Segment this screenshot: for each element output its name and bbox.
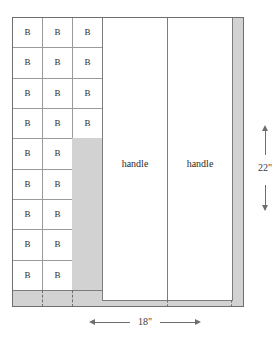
b-piece-cell: B (42, 108, 72, 138)
handle-panel-2-right-edge (232, 17, 233, 301)
b-piece-cell: B (42, 47, 72, 77)
b-piece-cell: B (12, 108, 42, 138)
handle-label-1: handle (103, 159, 167, 169)
b-piece-cell: B (12, 138, 42, 168)
width-dimension-label: 18" (130, 317, 160, 327)
b-piece-cell: B (12, 260, 42, 290)
b-piece-cell: B (12, 47, 42, 77)
b-piece-cell: B (12, 78, 42, 108)
height-dimension-arrow-down-icon (262, 205, 268, 211)
dashed-guide-2 (72, 290, 73, 307)
waste-region-column-3-lower (72, 130, 102, 290)
height-dimension-label: 22" (250, 163, 280, 173)
b-block-right-edge (102, 17, 103, 290)
b-piece-cell: B (42, 138, 72, 168)
b-piece-cell: B (12, 229, 42, 259)
waste-region-right-edge (232, 17, 244, 307)
b-piece-cell: B (72, 47, 102, 77)
cutting-layout-diagram: handle handle BBBBBBBBBBBBBBBBBBBBBB 18"… (0, 0, 280, 339)
width-dimension-line-right (160, 322, 195, 323)
b-piece-cell: B (72, 78, 102, 108)
b-piece-cell: B (42, 78, 72, 108)
b-piece-cell: B (72, 108, 102, 138)
b-piece-cell: B (42, 260, 72, 290)
b-piece-cell: B (42, 229, 72, 259)
b-piece-cell: B (42, 169, 72, 199)
b-piece-cell: B (12, 199, 42, 229)
b-piece-cell: B (42, 199, 72, 229)
dashed-guide-4 (231, 300, 232, 307)
width-dimension-line-left (95, 322, 130, 323)
width-dimension-arrow-left-icon (89, 319, 95, 325)
dashed-guide-3 (167, 300, 168, 307)
height-dimension-line-top (265, 130, 266, 155)
waste-region-handle-base (102, 300, 244, 307)
height-dimension-arrow-up-icon (262, 125, 268, 131)
b-piece-cell: B (72, 17, 102, 47)
b-piece-cell: B (42, 17, 72, 47)
width-dimension-arrow-right-icon (195, 319, 201, 325)
b-block-bottom-edge (12, 290, 103, 291)
handle-label-2: handle (168, 159, 232, 169)
b-piece-cell: B (12, 17, 42, 47)
b-piece-cell: B (12, 169, 42, 199)
dashed-guide-1 (42, 290, 43, 307)
